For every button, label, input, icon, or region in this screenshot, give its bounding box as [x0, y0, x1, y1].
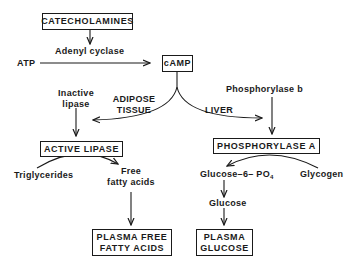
label-atp: ATP — [17, 58, 35, 69]
label-line: fatty acids — [104, 177, 158, 188]
label-glycogen: Glycogen — [300, 169, 343, 180]
node-label: PHOSPHORYLASE A — [217, 141, 316, 152]
node-phosphorylase-a: PHOSPHORYLASE A — [213, 138, 320, 154]
node-label: PLASMA — [204, 232, 246, 243]
label-line: ADIPOSE — [112, 94, 156, 105]
connector-arrows — [0, 0, 350, 269]
node-label: ACTIVE LIPASE — [44, 144, 119, 155]
label-text: Glucose–6– PO — [200, 169, 270, 179]
label-line: Free — [104, 166, 158, 177]
node-label: GLUCOSE — [200, 243, 249, 254]
node-label: cAMP — [164, 58, 191, 69]
label-glucose: Glucose — [209, 198, 247, 209]
node-label: CATECHOLAMINES — [41, 16, 134, 27]
label-phosphorylase-b: Phosphorylase b — [226, 84, 303, 95]
label-adipose-tissue: ADIPOSE TISSUE — [112, 94, 156, 116]
node-active-lipase: ACTIVE LIPASE — [40, 141, 123, 157]
label-glucose-6-phosphate: Glucose–6– PO4 — [200, 169, 274, 183]
label-line: TISSUE — [112, 105, 156, 116]
label-triglycerides: Triglycerides — [14, 170, 73, 181]
label-free-fatty-acids: Free fatty acids — [104, 166, 158, 188]
node-label: PLASMA FREE — [97, 232, 168, 243]
label-adenyl-cyclase: Adenyl cyclase — [55, 46, 124, 57]
node-camp: cAMP — [162, 55, 193, 72]
label-line: lipase — [56, 99, 96, 110]
label-inactive-lipase: Inactive lipase — [56, 88, 96, 110]
node-label: FATTY ACIDS — [100, 243, 164, 254]
node-catecholamines: CATECHOLAMINES — [42, 13, 133, 30]
label-line: Inactive — [56, 88, 96, 99]
node-plasma-free-fatty-acids: PLASMA FREE FATTY ACIDS — [92, 229, 172, 256]
arrow-glycogenolysis — [227, 155, 318, 168]
subscript: 4 — [270, 174, 274, 180]
label-liver: LIVER — [205, 105, 233, 116]
node-plasma-glucose: PLASMA GLUCOSE — [196, 229, 253, 256]
